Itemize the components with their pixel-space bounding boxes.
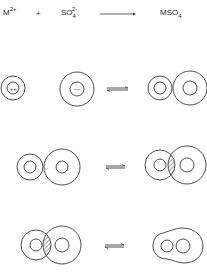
solvent-separated-pair-left bbox=[17, 149, 80, 185]
contact-ion-pair bbox=[153, 228, 203, 263]
equilibrium-arrow-icon bbox=[105, 244, 124, 249]
solvent-shared-pair-left bbox=[21, 226, 81, 264]
forward-arrow-icon bbox=[100, 13, 136, 16]
equilibrium-arrow-icon bbox=[106, 165, 125, 170]
solvent-shared-pair-right bbox=[145, 146, 206, 184]
anion-free-hydrated: −− bbox=[60, 72, 94, 106]
solvent-separated-pair-right bbox=[148, 71, 207, 105]
equilibrium-arrow-icon bbox=[107, 87, 128, 92]
cation-charge-label: ++ bbox=[9, 86, 17, 92]
anion-charge-label: −− bbox=[73, 86, 81, 92]
cation-free-hydrated: ++ bbox=[1, 76, 25, 100]
